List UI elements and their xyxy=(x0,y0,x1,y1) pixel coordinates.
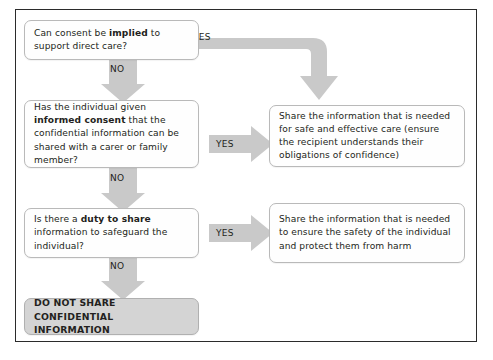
outcome-text-safety-protect-harm: Share the information that is needed to … xyxy=(270,213,464,253)
outcome-box-safe-effective-care: Share the information that is needed for… xyxy=(269,105,465,167)
no-label-informed-consent: NO xyxy=(110,173,124,183)
decision-box-informed-consent: Has the individual given informed consen… xyxy=(24,100,199,168)
terminal-text-do-not-share: DO NOT SHARE CONFIDENTIAL INFORMATION xyxy=(25,296,198,337)
outcome-text-safe-effective-care: Share the information that is needed for… xyxy=(270,110,464,163)
decision-text-informed-consent: Has the individual given informed consen… xyxy=(25,101,198,167)
yes-label-informed-consent: YES xyxy=(216,139,234,149)
no-label-duty-to-share: NO xyxy=(110,261,124,271)
decision-text-duty-to-share: Is there a duty to share information to … xyxy=(25,213,198,253)
decision-box-duty-to-share: Is there a duty to share information to … xyxy=(24,208,199,258)
decision-text-implied-consent: Can consent be implied to support direct… xyxy=(25,27,198,53)
flowchart-image: YES NO YES NO YES xyxy=(0,0,493,360)
terminal-box-do-not-share: DO NOT SHARE CONFIDENTIAL INFORMATION xyxy=(24,298,199,335)
decision-box-implied-consent: Can consent be implied to support direct… xyxy=(24,20,199,60)
yes-label-duty-to-share: YES xyxy=(216,228,234,238)
outcome-box-safety-protect-harm: Share the information that is needed to … xyxy=(269,203,465,263)
diagram-frame: YES NO YES NO YES xyxy=(15,9,477,342)
no-label-implied-consent: NO xyxy=(110,64,124,74)
